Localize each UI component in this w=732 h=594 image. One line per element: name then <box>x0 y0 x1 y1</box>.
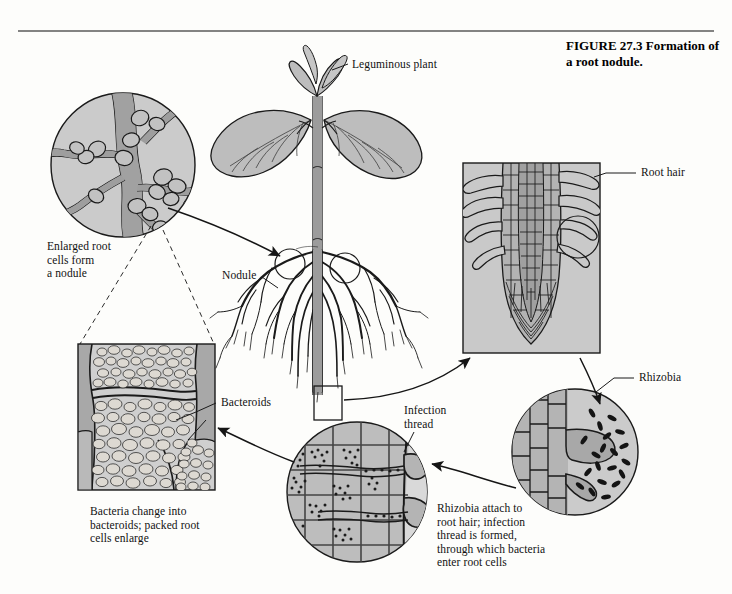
label-root-hair: Root hair <box>641 166 685 180</box>
caption-rhizobia-attach: Rhizobia attach to root hair; infection … <box>437 502 545 570</box>
label-nodule: Nodule <box>222 269 256 283</box>
label-enlarged-root-cells: Enlarged root cells form a nodule <box>47 240 111 281</box>
figure-page: FIGURE 27.3 Formation ofa root nodule. L… <box>0 0 732 594</box>
label-rhizobia: Rhizobia <box>639 371 681 385</box>
caption-bacteria-change: Bacteria change into bacteroids; packed … <box>90 505 200 546</box>
nodule-indicator-circle-2 <box>330 253 360 283</box>
label-leguminous-plant: Leguminous plant <box>352 58 437 72</box>
label-bacteroids: Bacteroids <box>221 396 271 410</box>
figure-title: FIGURE 27.3 Formation ofa root nodule. <box>566 38 726 70</box>
rhizobia-attaching-circle <box>512 389 638 515</box>
root-tip-with-root-hairs-panel <box>461 163 600 353</box>
arrow-rhizobia-to-infection <box>432 464 516 488</box>
label-infection-thread: Infection thread <box>404 404 446 431</box>
arrow-nodule-to-plant <box>168 208 280 256</box>
arrow-roottip-to-panel <box>344 358 470 400</box>
bacteroid-packed-cells-panel <box>78 344 215 491</box>
leguminous-plant-illustration <box>210 45 428 420</box>
arrow-infection-to-bacteroids <box>218 428 294 462</box>
